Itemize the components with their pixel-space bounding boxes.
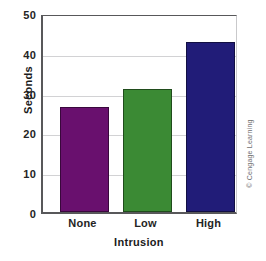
bar-none[interactable]: [60, 107, 109, 212]
copyright-credit: © Cengage Learning: [246, 115, 253, 193]
bar-chart-figure: 50 40 30 20 10 0 Seconds None Low High I…: [0, 0, 266, 261]
y-tick-label-50: 50: [4, 10, 36, 21]
plot-area: [41, 15, 237, 214]
bar-low[interactable]: [123, 89, 172, 212]
x-tick-label-none: None: [58, 217, 107, 229]
y-tick-label-10: 10: [4, 169, 36, 180]
x-axis: None Low High: [41, 217, 237, 233]
y-axis-title: Seconds: [22, 50, 34, 130]
y-tick-label-0: 0: [4, 209, 36, 220]
bar-high[interactable]: [186, 42, 235, 212]
y-tick-label-20: 20: [4, 129, 36, 140]
x-tick-label-high: High: [184, 217, 233, 229]
x-axis-title: Intrusion: [41, 236, 237, 248]
x-tick-label-low: Low: [121, 217, 170, 229]
